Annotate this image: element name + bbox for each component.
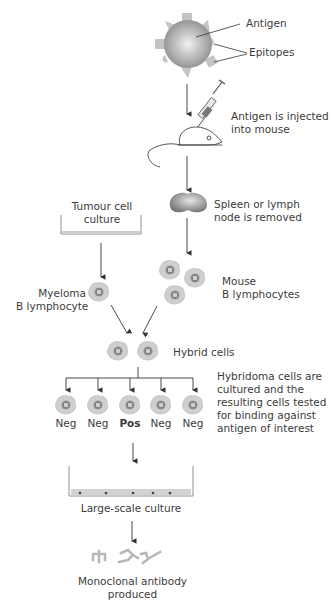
antigen-icon <box>155 13 218 78</box>
spleen-label: Spleen or lymph node is removed <box>214 198 302 224</box>
result-label-positive: Pos <box>116 417 144 430</box>
large-scale-culture-dish-icon <box>69 466 193 496</box>
syringe-icon <box>197 80 225 128</box>
pos-cell-icon <box>120 396 140 414</box>
neg-cell-icon <box>183 396 203 414</box>
spleen-icon <box>170 193 207 213</box>
hybrid-cell-icon <box>138 342 158 360</box>
mouse-b-cell-icon <box>165 286 185 304</box>
result-label: Neg <box>179 417 207 430</box>
hybrid-cell-icon <box>108 342 128 360</box>
neg-cell-icon <box>56 396 76 414</box>
injection-label: Antigen is injected into mouse <box>231 110 329 136</box>
result-label: Neg <box>52 417 80 430</box>
neg-cell-icon <box>151 396 171 414</box>
mouse-b-cell-icon <box>185 269 205 287</box>
tumour-culture-label: Tumour cell culture <box>66 200 138 226</box>
result-label: Neg <box>147 417 175 430</box>
hybrid-cells-label: Hybrid cells <box>173 346 235 359</box>
mouse-b-lymphocytes-label: Mouse B lymphocytes <box>222 275 300 301</box>
neg-cell-icon <box>88 396 108 414</box>
monoclonal-antibody-label: Monoclonal antibody produced <box>65 575 200 601</box>
myeloma-label: Myeloma B lymphocyte <box>16 287 86 313</box>
antigen-label: Antigen <box>246 17 287 30</box>
hybridoma-description: Hybridoma cells are cultured and the res… <box>217 370 326 435</box>
large-scale-culture-label: Large-scale culture <box>71 502 191 515</box>
mouse-b-cell-icon <box>160 261 180 279</box>
antibody-icon <box>93 550 160 563</box>
epitopes-label: Epitopes <box>249 46 294 59</box>
result-label: Neg <box>84 417 112 430</box>
mouse-icon <box>148 127 222 167</box>
myeloma-cell-icon <box>89 283 109 301</box>
